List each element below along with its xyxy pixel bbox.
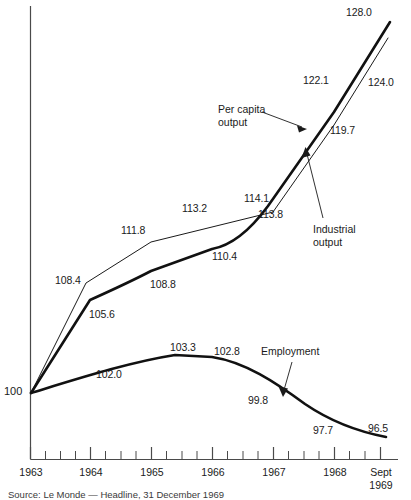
data-label-110-4: 110.4 <box>212 250 237 262</box>
annotation-per-capita-line1: Per capita <box>218 103 265 116</box>
data-label-111-8: 111.8 <box>121 224 145 236</box>
annotation-employment: Employment <box>261 345 319 358</box>
data-label-105-6: 105.6 <box>89 308 115 320</box>
annotation-per-capita-output: Per capita output <box>218 103 265 129</box>
x-axis-major-ticks <box>31 447 381 460</box>
data-label-102-8: 102.8 <box>214 345 240 357</box>
series-line-industrial-output <box>31 22 390 393</box>
data-label-114-1: 114.1 <box>244 192 269 204</box>
data-label-103-3: 103.3 <box>170 341 196 353</box>
x-tick-label-1966: 1966 <box>192 466 234 479</box>
data-label-122-1: 122.1 <box>303 74 329 86</box>
x-tick-label-1965: 1965 <box>131 466 173 479</box>
x-tick-label-1967: 1967 <box>253 466 295 479</box>
chart-source-caption: Source: Le Monde — Headline, 31 December… <box>8 489 224 500</box>
data-label-99-8: 99.8 <box>248 394 268 406</box>
chart-container: 128.0 124.0 122.1 119.7 114.1 113.8 113.… <box>0 0 411 500</box>
data-label-113-2: 113.2 <box>182 202 207 214</box>
x-axis-minor-ticks <box>46 451 366 460</box>
series-line-per-capita-output <box>31 38 388 393</box>
data-label-124-0: 124.0 <box>368 76 394 88</box>
annotation-leader-per-capita <box>262 112 307 133</box>
annotation-industrial-line1: Industrial <box>313 223 356 236</box>
data-label-96-5: 96.5 <box>368 422 388 434</box>
annotation-per-capita-line2: output <box>218 116 265 129</box>
data-label-102-0: 102.0 <box>96 368 122 380</box>
annotation-industrial-line2: output <box>313 236 356 249</box>
data-label-108-4: 108.4 <box>55 274 81 286</box>
data-label-97-7: 97.7 <box>313 424 333 436</box>
annotation-industrial-output: Industrial output <box>313 223 356 249</box>
x-tick-label-1968: 1968 <box>314 466 356 479</box>
data-label-100-origin: 100 <box>4 385 22 397</box>
data-label-128-0: 128.0 <box>346 6 372 18</box>
chart-plot-area <box>0 0 411 500</box>
data-label-113-8: 113.8 <box>258 208 283 220</box>
x-tick-label-sept-1969: Sept 1969 <box>360 466 402 491</box>
data-label-119-7: 119.7 <box>330 124 355 136</box>
annotation-leader-industrial <box>302 147 324 218</box>
x-tick-label-sept: Sept <box>360 466 402 479</box>
data-label-108-8: 108.8 <box>150 278 176 290</box>
x-tick-label-1964: 1964 <box>70 466 112 479</box>
x-tick-label-1969: 1969 <box>360 479 402 492</box>
x-tick-label-1963: 1963 <box>10 466 52 479</box>
